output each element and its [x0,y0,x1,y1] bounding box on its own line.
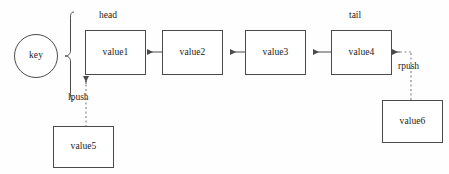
pending-node-label: value6 [400,117,426,127]
tail-pointer-label: tail [349,11,361,21]
list-node-value3[interactable]: value3 [245,30,306,75]
list-node-value4[interactable]: value4 [331,30,392,75]
pending-node-value6[interactable]: value6 [382,100,443,143]
list-node-label: value3 [263,48,289,58]
diagram-canvas: key head tail value1 value2 value3 value… [0,0,449,174]
pending-node-label: value5 [71,142,97,152]
key-node[interactable]: key [14,34,58,78]
rpush-operation-label: rpush [398,62,419,72]
head-pointer-label: head [99,11,117,21]
list-node-label: value4 [349,48,375,58]
key-node-label: key [29,51,43,61]
pending-node-value5[interactable]: value5 [53,126,114,168]
rpush-connector [392,52,411,100]
list-node-value1[interactable]: value1 [85,30,146,75]
key-brace-icon [65,12,74,100]
lpush-operation-label: lpush [68,93,89,103]
list-node-label: value2 [180,48,206,58]
list-node-label: value1 [103,48,129,58]
list-node-value2[interactable]: value2 [162,30,223,75]
